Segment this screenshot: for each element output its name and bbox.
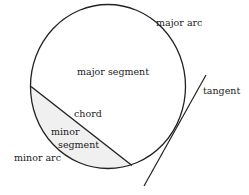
circle-parts-diagram: major arc major segment tangent chord mi… <box>0 0 249 195</box>
tangent-line <box>144 75 206 186</box>
label-tangent: tangent <box>203 85 240 96</box>
label-chord: chord <box>74 108 102 119</box>
label-major-arc: major arc <box>156 17 202 28</box>
label-minor-segment-line1: minor <box>51 126 80 137</box>
label-minor-arc: minor arc <box>14 152 61 163</box>
label-minor-segment-line2: segment <box>58 139 99 150</box>
label-major-segment: major segment <box>77 66 149 77</box>
